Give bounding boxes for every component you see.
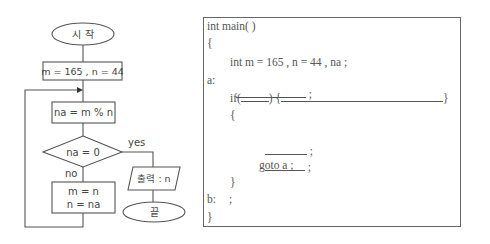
code-box — [203, 17, 461, 227]
if-brace-close: } — [443, 92, 449, 104]
if-keyword: if( — [230, 92, 241, 104]
code-open-brace: { — [207, 36, 213, 50]
label-b: b: — [207, 192, 216, 206]
semicolon: ; — [308, 161, 311, 173]
update-label-1: m = n — [68, 186, 99, 197]
label-a: a: — [207, 73, 215, 87]
compute-label: na = m % n — [54, 107, 113, 118]
code-end-brace: } — [207, 210, 213, 224]
yes-branch-line — [122, 152, 153, 167]
code-if-line: if() {} — [230, 91, 449, 105]
code-b-semicolon: ; — [229, 192, 232, 206]
answer-blank-if-body[interactable] — [281, 91, 443, 102]
decision-label: na = 0 — [66, 147, 100, 158]
arrow-head-icon — [77, 87, 83, 93]
no-label: no — [65, 168, 77, 179]
init-label: m = 165 , n = 44 — [41, 66, 124, 77]
if-close: ) { — [269, 92, 281, 104]
end-label: 끝 — [150, 207, 159, 218]
code-inner-open-brace: { — [230, 108, 236, 122]
answer-blank-condition[interactable] — [241, 91, 269, 102]
code-declaration: int m = 165 , n = 44 , na ; — [230, 55, 347, 69]
update-label-2: n = na — [67, 199, 101, 210]
code-inner-close-brace: } — [230, 175, 236, 189]
yes-label: yes — [128, 137, 145, 148]
start-label: 시 작 — [72, 29, 93, 40]
code-goto: goto a ; — [259, 158, 294, 172]
output-label: 출력 : n — [137, 173, 170, 184]
code-line-main: int main( ) — [207, 19, 256, 33]
flowchart: 시 작 m = 165 , n = 44 na = m % n na = 0 y… — [0, 0, 200, 244]
